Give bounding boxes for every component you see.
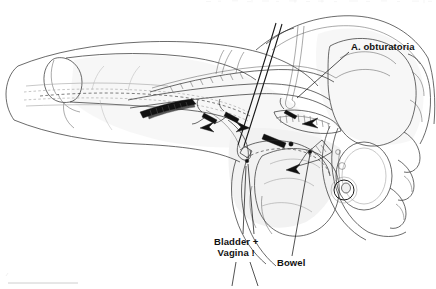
label-bladder-vagina: Bladder +Vagina !	[214, 236, 258, 258]
leader-bladder-tail-a	[232, 262, 236, 286]
bottom-edge-mark	[6, 273, 78, 283]
anatomical-figure: A. obturatoria Bladder +Vagina ! Bowel	[0, 0, 436, 289]
label-a-obturatoria: A. obturatoria	[351, 41, 415, 52]
leader-bladder-tail-b	[250, 262, 258, 286]
cropped-text-row	[206, 0, 432, 3]
label-bowel: Bowel	[277, 257, 305, 268]
label-bladder-line1: Bladder +	[214, 236, 258, 247]
label-bladder-line2: Vagina !	[218, 247, 255, 258]
